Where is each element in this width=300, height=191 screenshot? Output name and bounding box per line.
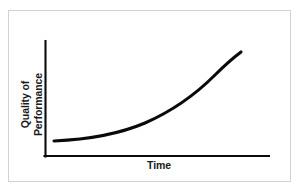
figure-frame: Quality of Performance Time [8,10,291,182]
performance-growth-curve [54,52,241,141]
chart-plot-area [9,11,292,183]
chart-svg [9,11,292,183]
top-cropped-text-artifact: . . [44,0,96,4]
x-axis-label: Time [45,159,273,171]
